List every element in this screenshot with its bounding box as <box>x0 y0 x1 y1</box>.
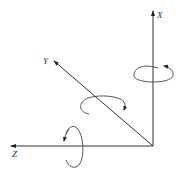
x-axis: X <box>153 10 163 146</box>
x-rotation-arrow-icon <box>134 66 173 82</box>
z-axis-label: Z <box>12 149 18 159</box>
x-axis-label: X <box>156 10 163 20</box>
coordinate-diagram: X Y Z <box>0 0 186 179</box>
y-rotation-arrow-icon <box>81 96 126 114</box>
z-rotation-arrow-icon <box>64 126 83 167</box>
y-axis-label: Y <box>43 56 49 66</box>
